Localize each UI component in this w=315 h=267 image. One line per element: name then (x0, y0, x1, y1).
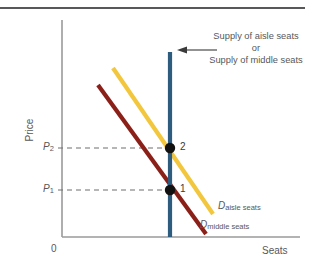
demand-aisle-seats-label: Daisle seats (218, 200, 261, 212)
price-tick-p2-symbol: P (43, 141, 50, 152)
demand-curve-middle-seats (98, 85, 206, 234)
supply-callout-line-2: or (200, 42, 312, 54)
price-tick-p1-symbol: P (43, 183, 50, 194)
demand-middle-subscript: middle seats (207, 222, 249, 231)
equilibrium-point-2 (165, 143, 175, 153)
x-axis-label: Seats (262, 245, 288, 256)
supply-demand-chart: Price Seats 0 P2 P1 2 1 Supply of aisle … (0, 0, 315, 267)
equilibrium-point-1-label: 1 (180, 183, 186, 194)
supply-callout-line-1: Supply of aisle seats (200, 30, 312, 42)
equilibrium-point-1 (165, 185, 175, 195)
supply-callout-text: Supply of aisle seats or Supply of middl… (200, 30, 312, 66)
price-tick-p1-subscript: 1 (50, 186, 54, 195)
equilibrium-point-2-label: 2 (180, 141, 186, 152)
demand-middle-seats-label: Dmiddle seats (200, 219, 249, 231)
origin-label: 0 (51, 243, 57, 254)
demand-aisle-subscript: aisle seats (225, 203, 260, 212)
y-axis-label: Price (24, 119, 35, 142)
price-tick-p2-subscript: 2 (50, 144, 54, 153)
price-tick-p2: P2 (43, 141, 54, 153)
demand-curve-aisle-seats (113, 68, 213, 214)
callout-arrow-head (177, 46, 187, 53)
price-tick-p1: P1 (43, 183, 54, 195)
supply-callout-line-3: Supply of middle seats (200, 54, 312, 66)
